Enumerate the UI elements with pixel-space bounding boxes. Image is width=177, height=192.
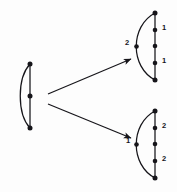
upper-edge-label-top-right: 1	[162, 24, 166, 32]
lower-edge-label-top-right: 2	[162, 122, 166, 130]
upper-vertex-spine-lower	[153, 61, 158, 66]
source-vertex-middle	[28, 94, 33, 99]
lower-vertex-spine-middle	[153, 142, 158, 147]
source-graph	[20, 62, 32, 131]
lower-vertex-arc-middle	[134, 142, 139, 147]
upper-target-graph	[134, 11, 157, 83]
upper-vertex-spine-middle	[153, 44, 158, 49]
diagram-canvas: 1 1 2 2 2 1	[0, 0, 177, 192]
upper-arc-edge	[136, 13, 155, 80]
lower-vertex-top	[153, 109, 158, 114]
lower-target-graph	[134, 109, 157, 181]
source-vertex-top	[28, 62, 33, 67]
diagram-svg	[0, 0, 177, 192]
lower-vertex-spine-lower	[153, 159, 158, 164]
lower-edge-label-arc: 1	[126, 137, 130, 145]
upper-vertex-top	[153, 11, 158, 16]
upper-edge-label-arc: 2	[125, 39, 129, 47]
upper-vertex-bottom	[153, 78, 158, 83]
lower-edge-label-bottom-right: 2	[162, 155, 166, 163]
lower-vertex-bottom	[153, 176, 158, 181]
upper-vertex-spine-upper	[153, 28, 158, 33]
arrow-to-lower-target	[48, 104, 131, 138]
source-vertex-bottom	[28, 126, 33, 131]
arrow-group	[48, 59, 131, 138]
upper-vertex-arc-middle	[134, 44, 139, 49]
upper-edge-label-bottom-right: 1	[162, 57, 166, 65]
lower-vertex-spine-upper	[153, 126, 158, 131]
lower-arc-edge	[136, 111, 155, 178]
arrow-to-upper-target	[48, 59, 131, 94]
